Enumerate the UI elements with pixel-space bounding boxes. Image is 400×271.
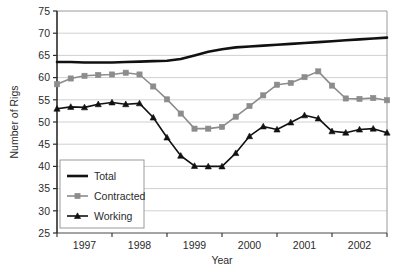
data-point-marker [137,72,142,77]
x-tick-label: 1997 [73,239,97,251]
x-tick-label: 2001 [293,239,317,251]
data-point-marker [178,111,183,116]
data-point-marker [329,83,334,88]
data-point-marker [274,82,279,87]
data-point-marker [371,95,376,100]
data-point-marker [219,124,224,129]
data-point-marker [164,97,169,102]
legend-item-label: Working [94,210,132,222]
data-point-marker [288,80,293,85]
data-point-marker [247,103,252,108]
data-point-marker [192,126,197,131]
data-point-marker [151,84,156,89]
rig-count-line-chart: 2530354045505560657075 19971998199920002… [0,0,400,271]
data-point-marker [302,75,307,80]
y-tick-label: 45 [38,138,50,150]
x-tick-label: 1999 [183,239,207,251]
y-tick-label: 75 [38,5,50,17]
y-tick-label: 40 [38,160,50,172]
legend-item-label: Total [94,170,116,182]
x-tick-label: 2002 [348,239,372,251]
y-axis-title: Number of Rigs [8,86,20,159]
data-point-marker [343,96,348,101]
data-point-marker [357,96,362,101]
x-tick-label: 2000 [238,239,262,251]
y-tick-label: 70 [38,27,50,39]
chart-canvas: 2530354045505560657075 19971998199920002… [0,0,400,271]
data-point-marker [68,76,73,81]
chart-legend: TotalContractedWorking [60,160,146,228]
y-tick-label: 55 [38,94,50,106]
y-tick-label: 60 [38,71,50,83]
y-tick-label: 35 [38,182,50,194]
y-tick-label: 30 [38,205,50,217]
data-point-marker [109,72,114,77]
data-point-marker [54,82,59,87]
y-tick-label: 65 [38,49,50,61]
data-point-marker [206,126,211,131]
y-axis-ticks: 2530354045505560657075 [38,5,57,239]
data-point-marker [82,73,87,78]
y-tick-label: 25 [38,227,50,239]
legend-item-label: Contracted [94,190,146,202]
data-point-marker [384,98,389,103]
data-point-marker [233,114,238,119]
x-axis-title: Year [211,254,233,266]
y-tick-label: 50 [38,116,50,128]
x-tick-label: 1998 [128,239,152,251]
data-point-marker [123,70,128,75]
x-axis-ticks: 199719981999200020012002 [57,233,387,251]
data-point-marker [316,69,321,74]
data-point-marker [261,93,266,98]
data-point-marker [96,72,101,77]
data-point-marker [75,193,80,198]
